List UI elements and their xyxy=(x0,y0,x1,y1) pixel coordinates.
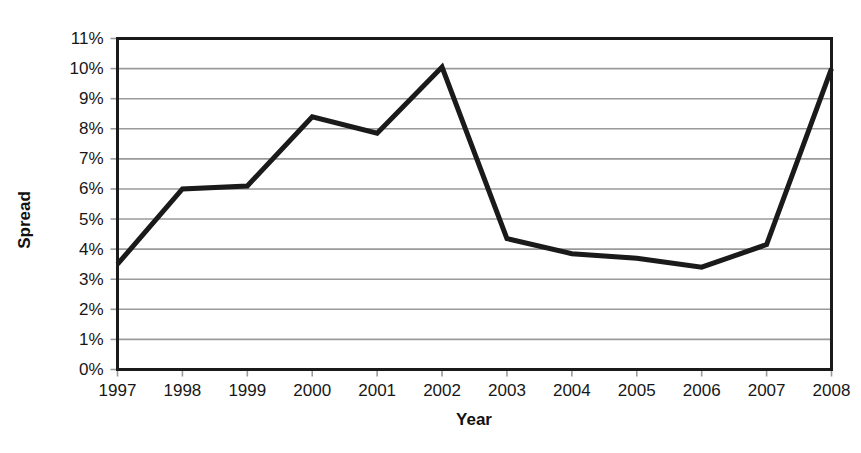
y-tick-label: 2% xyxy=(79,300,104,319)
y-tick-label: 1% xyxy=(79,330,104,349)
x-tick-label: 1997 xyxy=(99,381,137,400)
y-tick-label: 5% xyxy=(79,210,104,229)
x-tick-label: 1998 xyxy=(163,381,201,400)
x-tick-label: 2007 xyxy=(748,381,786,400)
y-tick-label: 4% xyxy=(79,240,104,259)
x-tick-label: 2008 xyxy=(813,381,851,400)
x-tick-label: 2002 xyxy=(423,381,461,400)
x-tick-label: 2003 xyxy=(488,381,526,400)
x-tick-label: 2005 xyxy=(618,381,656,400)
y-tick-label: 7% xyxy=(79,149,104,168)
y-tick-label: 11% xyxy=(71,29,104,48)
y-axis-title: Spread xyxy=(15,191,34,249)
x-axis-title: Year xyxy=(456,410,492,429)
y-tick-label: 3% xyxy=(79,270,104,289)
x-tick-label: 2000 xyxy=(293,381,331,400)
y-tick-label: 8% xyxy=(79,119,104,138)
x-tick-label: 2004 xyxy=(553,381,591,400)
x-tick-label: 2006 xyxy=(683,381,721,400)
y-tick-label: 0% xyxy=(79,360,104,379)
x-tick-label: 1999 xyxy=(228,381,266,400)
y-tick-label: 10% xyxy=(69,59,103,78)
line-chart: 0%1%2%3%4%5%6%7%8%9%10%11% 1997199819992… xyxy=(0,0,861,453)
x-tick-label: 2001 xyxy=(358,381,396,400)
chart-canvas: 0%1%2%3%4%5%6%7%8%9%10%11% 1997199819992… xyxy=(0,0,861,453)
y-tick-label: 6% xyxy=(79,179,104,198)
y-tick-label: 9% xyxy=(79,89,104,108)
